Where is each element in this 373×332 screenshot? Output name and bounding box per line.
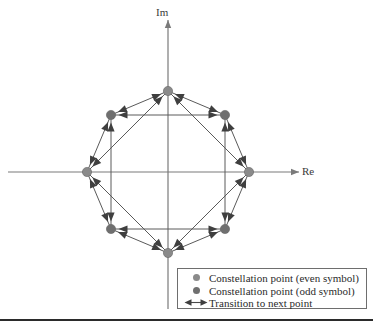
transition-line	[89, 93, 166, 170]
transition-line	[170, 174, 247, 251]
transition-arrowhead	[118, 105, 128, 112]
transition-line	[89, 174, 166, 251]
transition-4-to-6	[89, 174, 166, 251]
legend-label-transition: Transition to next point	[209, 297, 312, 309]
legend-label-even-point: Constellation point (even symbol)	[209, 272, 359, 284]
transition-arrowhead	[221, 123, 228, 132]
double-arrow-icon	[183, 296, 209, 309]
imaginary-axis-arrowhead	[165, 20, 171, 28]
transition-arrowhead	[101, 212, 108, 222]
constellation-point-7-odd	[220, 224, 229, 233]
constellation-point-1-odd	[220, 110, 229, 119]
constellation-point-4-even	[82, 167, 91, 176]
transition-2-to-4	[89, 93, 166, 170]
transition-arrowhead	[208, 232, 218, 239]
transition-arrowhead	[119, 225, 128, 232]
constellation-point-6-even	[163, 248, 172, 257]
real-axis-label: Re	[302, 165, 314, 177]
transition-arrowhead	[221, 213, 228, 222]
legend-item-even-point: Constellation point (even symbol)	[183, 271, 359, 284]
legend-label-odd-point: Constellation point (odd symbol)	[209, 285, 355, 297]
constellation-point-5-odd	[106, 224, 115, 233]
constellation-point-3-odd	[106, 110, 115, 119]
constellation-point-0-even	[244, 167, 253, 176]
transition-6-to-0	[170, 174, 247, 251]
page-bottom-rule	[0, 319, 373, 321]
transition-arrowhead	[209, 225, 218, 232]
transition-arrowhead	[209, 111, 218, 118]
circle-even-icon	[183, 271, 209, 284]
legend-item-transition: Transition to next point	[183, 296, 312, 309]
transition-arrowhead	[228, 212, 235, 222]
real-axis-arrowhead	[291, 169, 299, 175]
imaginary-axis-label: Im	[156, 6, 168, 18]
transition-arrowhead	[228, 122, 235, 132]
transition-arrowhead	[107, 123, 114, 132]
transition-arrowhead	[101, 122, 108, 132]
transition-arrowhead	[118, 232, 128, 239]
transition-arrowhead	[107, 213, 114, 222]
constellation-point-2-even	[163, 86, 172, 95]
transition-arrowhead	[119, 111, 128, 118]
legend: Constellation point (even symbol) Conste…	[177, 268, 367, 309]
transition-0-to-2	[170, 93, 247, 170]
axes-group	[8, 20, 299, 309]
constellation-figure: Im Re Constellation point (even symbol) …	[0, 0, 373, 332]
transition-arrowhead	[208, 105, 218, 112]
transition-line	[170, 93, 247, 170]
